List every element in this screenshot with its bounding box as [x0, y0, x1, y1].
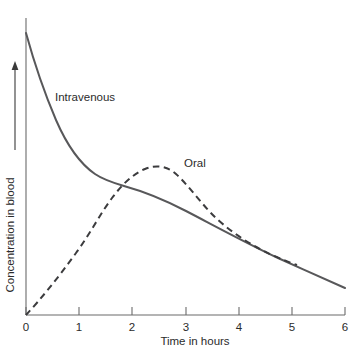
x-tick-label: 2 — [129, 321, 135, 333]
x-tick-label: 1 — [76, 321, 82, 333]
y-axis-title: Concentration in blood — [4, 177, 16, 292]
intravenous-label: Intravenous — [55, 91, 115, 103]
x-tick-label: 3 — [183, 321, 189, 333]
chart-svg: 0 1 2 3 4 5 6 Intravenous Oral Time in h… — [0, 0, 352, 351]
x-axis-title: Time in hours — [160, 335, 229, 347]
oral-curve — [26, 166, 297, 315]
x-tick-label: 6 — [342, 321, 348, 333]
oral-label: Oral — [184, 157, 206, 169]
x-tick-label: 4 — [236, 321, 243, 333]
x-axis-ticks — [26, 307, 345, 315]
x-axis-tick-labels: 0 1 2 3 4 5 6 — [23, 321, 348, 333]
x-tick-label: 5 — [289, 321, 295, 333]
y-axis-arrow — [12, 61, 19, 150]
pharmacokinetics-chart: 0 1 2 3 4 5 6 Intravenous Oral Time in h… — [0, 0, 352, 351]
x-tick-label: 0 — [23, 321, 29, 333]
